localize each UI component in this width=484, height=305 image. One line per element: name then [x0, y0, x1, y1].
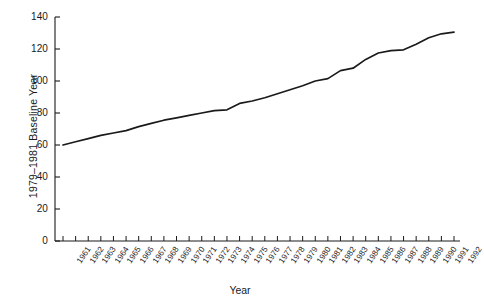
y-axis-tick-label: 100 [22, 75, 48, 86]
y-axis-tick-label: 40 [22, 171, 48, 182]
y-axis-tick-label: 60 [22, 139, 48, 150]
y-axis-tick-label: 80 [22, 107, 48, 118]
y-axis-ticks [55, 17, 60, 241]
y-axis-tick-label: 140 [22, 11, 48, 22]
x-axis-title: Year [0, 284, 480, 296]
data-series-line [63, 32, 454, 145]
y-axis-tick-label: 120 [22, 43, 48, 54]
y-axis-tick-label: 0 [22, 235, 48, 246]
x-axis-ticks [63, 236, 454, 241]
y-axis-tick-label: 20 [22, 203, 48, 214]
